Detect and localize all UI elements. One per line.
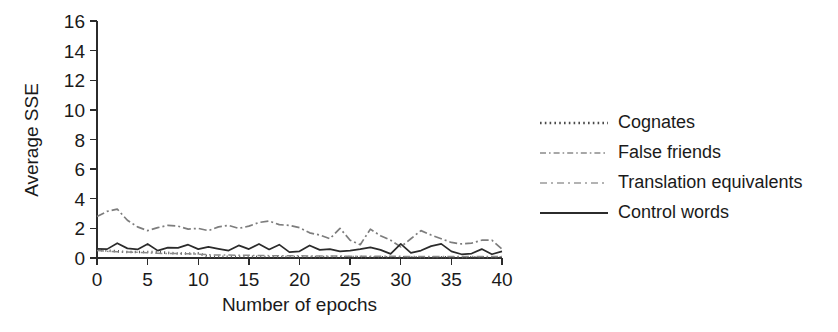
y-tick-label: 0	[74, 248, 85, 269]
chart-figure: 0246810121416 0510152025303540 Average S…	[0, 0, 838, 332]
legend-label-1: False friends	[618, 142, 721, 162]
y-tick-label: 12	[64, 70, 85, 91]
y-axis-ticks: 0246810121416	[64, 11, 97, 269]
legend-label-2: Translation equivalents	[618, 172, 802, 192]
y-tick-label: 10	[64, 100, 85, 121]
x-tick-label: 25	[340, 269, 361, 290]
x-tick-label: 0	[92, 269, 103, 290]
y-tick-label: 6	[74, 159, 85, 180]
chart-canvas: 0246810121416 0510152025303540 Average S…	[0, 0, 838, 332]
x-axis-ticks: 0510152025303540	[92, 258, 513, 290]
legend-label-3: Control words	[618, 202, 729, 222]
y-tick-label: 2	[74, 218, 85, 239]
x-tick-label: 15	[238, 269, 259, 290]
x-tick-label: 35	[441, 269, 462, 290]
x-tick-label: 30	[390, 269, 411, 290]
y-tick-label: 8	[74, 130, 85, 151]
y-axis-title: Average SSE	[21, 83, 42, 197]
x-axis-title: Number of epochs	[222, 294, 377, 315]
data-series-group	[97, 209, 502, 257]
x-tick-label: 5	[142, 269, 153, 290]
plot-area: 0246810121416 0510152025303540	[64, 11, 513, 290]
y-tick-label: 14	[64, 41, 86, 62]
x-tick-label: 20	[289, 269, 310, 290]
x-tick-label: 10	[188, 269, 209, 290]
x-tick-label: 40	[491, 269, 512, 290]
chart-legend: CognatesFalse friendsTranslation equival…	[540, 112, 802, 222]
legend-label-0: Cognates	[618, 112, 695, 132]
y-tick-label: 4	[74, 189, 85, 210]
y-tick-label: 16	[64, 11, 85, 32]
